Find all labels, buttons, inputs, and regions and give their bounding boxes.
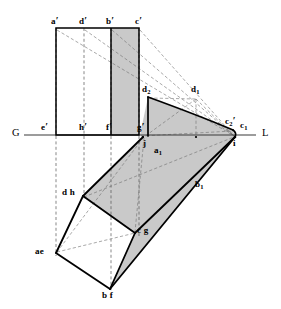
projection-drawing-svg: [0, 0, 281, 309]
label-j: j: [143, 139, 146, 148]
front-shaded-panel: [111, 28, 139, 135]
label-i: i: [233, 139, 236, 148]
ray-d2-to-d1: [149, 98, 196, 99]
label-c-prime: c′: [135, 16, 142, 26]
label-ae: ae: [35, 247, 44, 256]
label-b-prime: b′: [106, 16, 114, 26]
label-d2: d2: [142, 85, 151, 94]
descriptive-geometry-figure: G L a′ d′ b′ c′ e′ h′ f′ g′ d2 d1 c2′ c1…: [0, 0, 281, 309]
label-d1: d1: [191, 85, 200, 94]
label-dh: d h: [62, 188, 75, 197]
ray-ae-to-cg: [57, 233, 135, 252]
label-ground-left: G: [12, 128, 20, 139]
label-e-prime: e′: [41, 122, 48, 132]
label-bf: b f: [102, 291, 113, 300]
label-h-prime: h′: [79, 122, 87, 132]
prism-edge-dh-ae: [56, 196, 83, 253]
label-ground-right: L: [262, 128, 269, 139]
label-cg: c g: [137, 226, 148, 235]
label-c1: c1: [240, 121, 248, 130]
label-c2-prime: c2′: [225, 116, 236, 126]
prism-edge-ae-bf: [56, 253, 110, 289]
label-a1: a1: [154, 146, 162, 155]
label-b1: b1: [195, 180, 204, 189]
label-f-prime: f′: [106, 122, 112, 132]
label-d-prime: d′: [79, 16, 87, 26]
label-g-prime: g′: [137, 122, 145, 132]
label-a-prime: a′: [51, 16, 59, 26]
marker-mid-aux: [195, 136, 197, 138]
